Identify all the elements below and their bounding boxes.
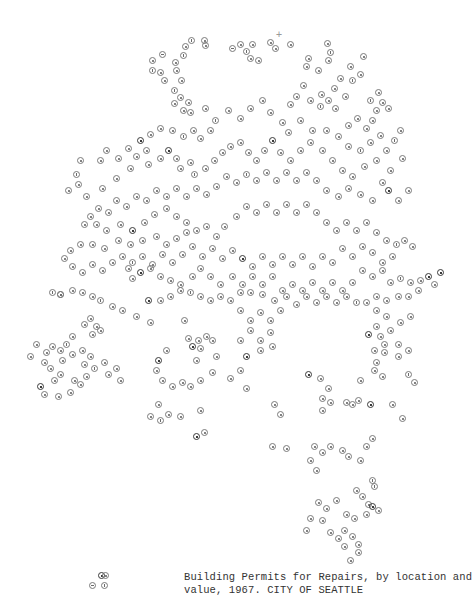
permit-symbol-icon: [255, 57, 262, 64]
permit-symbol-icon: [237, 367, 244, 374]
permit-symbol-icon: [277, 149, 284, 156]
permit-symbol-icon: [65, 187, 72, 194]
permit-symbol-icon: [317, 375, 324, 382]
permit-symbol-icon: [169, 259, 176, 266]
permit-symbol-icon: [163, 347, 170, 354]
permit-symbol-icon: [263, 169, 270, 176]
permit-symbol-icon: [267, 109, 274, 116]
permit-symbol-icon: [317, 103, 324, 110]
permit-symbol-icon: [309, 263, 316, 270]
permit-symbol-icon: [395, 341, 402, 348]
permit-symbol-icon: [180, 133, 187, 140]
permit-symbol-icon: [189, 343, 196, 350]
permit-symbol-icon: [201, 429, 208, 436]
permit-symbol-icon: [389, 253, 396, 260]
permit-symbol-icon: [307, 97, 314, 104]
permit-symbol-icon: [327, 443, 334, 450]
permit-symbol-icon: [360, 53, 367, 60]
permit-symbol-icon: [197, 265, 204, 272]
permit-symbol-icon: [59, 357, 66, 364]
permit-symbol-icon: [247, 327, 254, 334]
permit-symbol-icon: [197, 293, 204, 300]
permit-symbol-icon: [153, 233, 160, 240]
permit-symbol-icon: [157, 297, 164, 304]
permit-symbol-icon: [212, 117, 219, 124]
permit-symbol-icon: [247, 55, 254, 62]
permit-symbol-icon: [339, 167, 346, 174]
permit-symbol-icon: [209, 337, 216, 344]
permit-symbol-icon: [187, 289, 194, 296]
permit-symbol-icon: [383, 147, 390, 154]
permit-symbol-icon: [89, 293, 96, 300]
permit-symbol-icon: [319, 449, 326, 456]
permit-symbol-icon: [237, 337, 244, 344]
permit-symbol-icon: [369, 249, 376, 256]
permit-symbol-icon: [287, 41, 294, 48]
permit-symbol-icon: [117, 221, 124, 228]
permit-symbol-icon: [391, 137, 398, 144]
permit-symbol-icon: [329, 279, 336, 286]
permit-symbol-icon: [179, 251, 186, 258]
permit-symbol-icon: [172, 59, 179, 66]
permit-symbol-icon: [395, 353, 402, 360]
permit-symbol-icon: [181, 317, 188, 324]
permit-symbol-icon: [213, 183, 220, 190]
permit-symbol-icon: [233, 179, 240, 186]
permit-symbol-icon: [177, 287, 184, 294]
permit-symbol-icon: [399, 415, 406, 422]
permit-symbol-icon: [243, 353, 250, 360]
permit-symbol-icon: [193, 433, 200, 440]
permit-symbol-icon: [133, 193, 140, 200]
permit-symbol-icon: [57, 291, 64, 298]
permit-symbol-icon: [139, 237, 146, 244]
permit-symbol-icon: [163, 241, 170, 248]
permit-symbol-icon: [395, 197, 402, 204]
permit-symbol-icon: [343, 293, 350, 300]
permit-symbol-icon: [207, 273, 214, 280]
permit-symbol-icon: [243, 385, 250, 392]
permit-symbol-icon: [345, 185, 352, 192]
permit-symbol-icon: [127, 241, 134, 248]
permit-symbol-icon: [109, 259, 116, 266]
permit-symbol-icon: [257, 337, 264, 344]
permit-symbol-icon: [147, 265, 154, 272]
permit-symbol-icon: [383, 313, 390, 320]
permit-symbol-icon: [349, 279, 356, 286]
permit-symbol-icon: [257, 309, 264, 316]
permit-symbol-icon: [339, 245, 346, 252]
permit-symbol-icon: [357, 377, 364, 384]
permit-symbol-icon: [393, 241, 400, 248]
permit-symbol-icon: [333, 227, 340, 234]
permit-symbol-icon: [169, 127, 176, 134]
permit-symbol-icon: [387, 167, 394, 174]
permit-symbol-icon: [229, 45, 236, 52]
permit-symbol-icon: [347, 557, 354, 564]
permit-symbol-icon: [137, 137, 144, 144]
permit-symbol-icon: [259, 291, 266, 298]
permit-symbol-icon: [229, 247, 236, 254]
permit-symbol-icon: [353, 227, 360, 234]
permit-symbol-icon: [313, 467, 320, 474]
permit-symbol-icon: [379, 259, 386, 266]
permit-symbol-icon: [247, 105, 254, 112]
permit-symbol-icon: [237, 307, 244, 314]
permit-symbol-icon: [213, 353, 220, 360]
permit-symbol-icon: [177, 94, 184, 101]
permit-symbol-icon: [329, 259, 336, 266]
permit-symbol-icon: [289, 281, 296, 288]
permit-symbol-icon: [157, 417, 164, 424]
permit-symbol-icon: [293, 209, 300, 216]
permit-symbol-icon: [323, 127, 330, 134]
permit-symbol-icon: [269, 273, 276, 280]
permit-symbol-icon: [293, 301, 300, 308]
permit-symbol-icon: [405, 187, 412, 194]
permit-symbol-icon: [193, 357, 200, 364]
permit-symbol-icon: [359, 493, 366, 500]
permit-symbol-icon: [283, 201, 290, 208]
permit-symbol-icon: [325, 57, 332, 64]
permit-symbol-icon: [183, 219, 190, 226]
permit-symbol-icon: [167, 293, 174, 300]
permit-symbol-icon: [369, 197, 376, 204]
permit-symbol-icon: [125, 145, 132, 152]
